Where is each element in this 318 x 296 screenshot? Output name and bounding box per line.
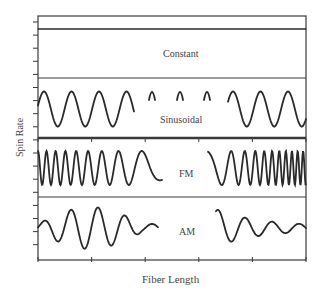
panel-label-fm: FM <box>179 168 193 179</box>
sinusoidal-curve-mid <box>149 92 210 100</box>
sinusoidal-curve-left <box>38 92 134 127</box>
chart-plot-area <box>0 0 318 296</box>
x-axis-label: Fiber Length <box>142 273 199 285</box>
fm-curve-right <box>208 151 306 185</box>
panel-label-constant: Constant <box>163 48 199 59</box>
sinusoidal-curve-right <box>228 92 306 127</box>
fm-curve-left <box>38 151 162 185</box>
y-axis-label: Spin Rate <box>14 113 25 163</box>
am-curve-left <box>38 208 158 249</box>
panel-label-sinusoidal: Sinusoidal <box>160 114 202 125</box>
panel-label-am: AM <box>179 226 195 237</box>
am-curve-right <box>216 210 306 242</box>
